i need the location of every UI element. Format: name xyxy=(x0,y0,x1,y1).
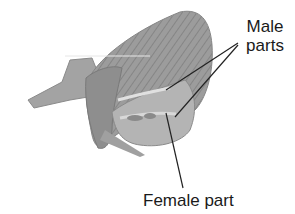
male-label-line1: Male xyxy=(240,17,290,36)
male-parts-label: Male parts xyxy=(240,17,290,55)
female-part-label: Female part xyxy=(143,191,234,210)
male-label-line2: parts xyxy=(240,36,290,55)
